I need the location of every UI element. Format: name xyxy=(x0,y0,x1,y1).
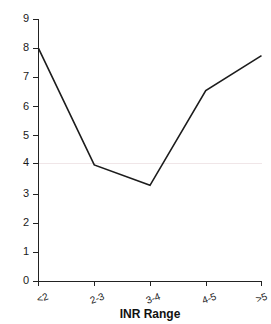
y-tick-label-3: 3 xyxy=(23,187,29,199)
y-tick-label-2: 2 xyxy=(23,216,29,228)
chart-container: 0 1 2 3 4 5 6 7 8 9 <2 2-3 3-4 4-5 >5 xyxy=(0,0,271,324)
y-tick-label-1: 1 xyxy=(23,245,29,257)
y-tick-label-7: 7 xyxy=(23,70,29,82)
x-axis-title: INR Range xyxy=(120,307,181,321)
y-tick-label-6: 6 xyxy=(23,100,29,112)
y-tick-label-8: 8 xyxy=(23,41,29,53)
y-tick-label-4: 4 xyxy=(23,156,29,168)
chart-background xyxy=(0,0,271,324)
y-tick-label-9: 9 xyxy=(23,12,29,24)
y-tick-label-0: 0 xyxy=(23,274,29,286)
line-chart: 0 1 2 3 4 5 6 7 8 9 <2 2-3 3-4 4-5 >5 xyxy=(0,0,271,324)
y-tick-label-5: 5 xyxy=(23,129,29,141)
